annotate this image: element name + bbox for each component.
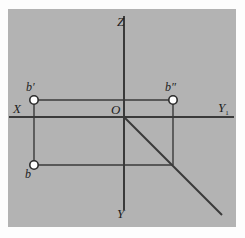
y1-axis-label-subscript: 1 bbox=[225, 109, 229, 117]
b-plain-label-base: b bbox=[25, 167, 31, 181]
b-plain-label: b bbox=[25, 167, 31, 181]
z-axis-label: Z bbox=[117, 14, 125, 29]
b-prime-point bbox=[30, 96, 38, 104]
b-prime-label-mark: ′ bbox=[32, 80, 35, 94]
b-plain-point bbox=[30, 161, 38, 169]
projection-diagram: Z Y X Y1 O b′ b″ b bbox=[0, 0, 245, 238]
origin-label: O bbox=[111, 102, 121, 117]
b-prime-label: b′ bbox=[26, 80, 35, 94]
figure-root: Z Y X Y1 O b′ b″ b bbox=[0, 0, 245, 238]
b-double-prime-point bbox=[169, 96, 177, 104]
b-double-prime-label: b″ bbox=[165, 80, 177, 94]
x-axis-label: X bbox=[12, 101, 22, 116]
